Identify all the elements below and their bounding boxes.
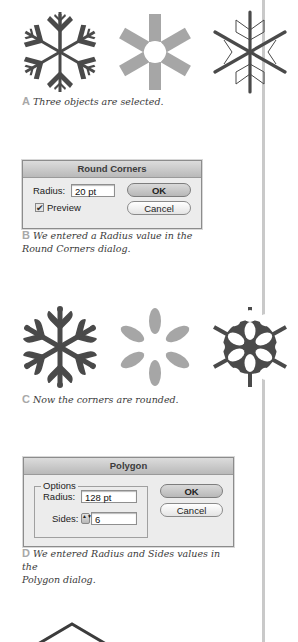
sides-stepper[interactable]: ▲▼ <box>81 513 90 524</box>
figure-letter-c: C <box>22 393 30 405</box>
figure-letter-b: B <box>22 229 30 241</box>
dialog-title: Polygon <box>24 458 233 475</box>
cancel-button[interactable]: Cancel <box>160 503 223 517</box>
caption-b: BWe entered a Radius value in the Round … <box>22 229 232 255</box>
radius-input[interactable]: 128 pt <box>81 490 137 503</box>
radius-label: Radius: <box>43 491 75 502</box>
snowflake-outline-icon <box>208 10 292 94</box>
options-group: Options Radius: 128 pt Sides: ▲▼ 6 <box>34 486 148 538</box>
ok-button[interactable]: OK <box>160 484 223 498</box>
cancel-button[interactable]: Cancel <box>127 201 191 215</box>
asterisk-gray-icon <box>113 10 197 94</box>
caption-d-line2: Polygon dialog. <box>22 574 96 585</box>
caption-c: CNow the corners are rounded. <box>22 393 232 406</box>
figure-letter-a: A <box>22 95 30 107</box>
radius-input[interactable]: 20 pt <box>71 184 115 197</box>
petals-gray-icon <box>113 305 197 389</box>
caption-b-line1: We entered a Radius value in the <box>33 230 193 241</box>
caption-a: AThree objects are selected. <box>22 95 232 108</box>
round-corners-dialog: Round Corners Radius: 20 pt OK ✔ Preview… <box>22 160 202 229</box>
caption-c-text: Now the corners are rounded. <box>33 394 179 405</box>
snowflake-dark-icon <box>18 10 102 94</box>
sides-label: Sides: <box>52 513 78 524</box>
caption-d-line1: We entered Radius and Sides values in th… <box>22 548 220 572</box>
caption-a-text: Three objects are selected. <box>33 96 164 107</box>
preview-checkbox[interactable]: ✔ <box>35 203 44 212</box>
dialog-title: Round Corners <box>23 161 201 178</box>
hexagon-outline-icon <box>30 622 120 642</box>
ok-button[interactable]: OK <box>127 183 191 197</box>
sides-input[interactable]: 6 <box>91 512 137 525</box>
polygon-dialog: Polygon Options Radius: 128 pt Sides: ▲▼… <box>23 457 234 547</box>
caption-d: DWe entered Radius and Sides values in t… <box>22 547 232 586</box>
radius-label: Radius: <box>33 185 65 196</box>
options-group-label: Options <box>41 480 78 491</box>
snowflake-rounded-dark-icon <box>18 305 102 389</box>
flower-snowflake-dark-icon <box>208 305 292 389</box>
caption-b-line2: Round Corners dialog. <box>22 243 131 254</box>
preview-label: Preview <box>47 202 81 213</box>
figure-letter-d: D <box>22 547 30 559</box>
